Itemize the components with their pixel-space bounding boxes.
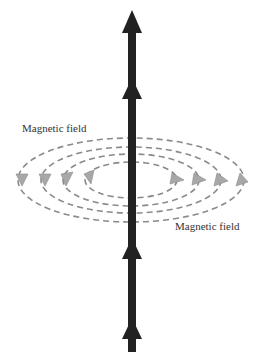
diagram-canvas: Magnetic field Magnetic field [0, 0, 260, 359]
current-arrow-icon [122, 318, 142, 339]
field-arrow-icon [236, 173, 248, 186]
current-arrow-icon [122, 78, 142, 99]
current-arrow-icon [122, 238, 142, 259]
current-arrow-icon [122, 10, 142, 33]
field-arrow-icon [61, 172, 73, 186]
current-wire [122, 10, 142, 352]
magnetic-field-label-top: Magnetic field [22, 122, 86, 134]
magnetic-field-diagram [0, 0, 260, 359]
magnetic-field-label-bottom: Magnetic field [175, 220, 239, 232]
